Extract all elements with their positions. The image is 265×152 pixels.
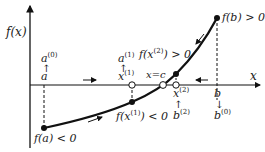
- point-fx2: [173, 71, 179, 77]
- x-axis-label: x: [250, 69, 257, 83]
- label-x2: x(2): [173, 86, 189, 100]
- label-fb: f(b) > 0: [221, 11, 265, 24]
- point-fx1: [129, 99, 135, 105]
- bisection-diagram: f(x) x a(0) ↑ a a(1) ↑ x(1) f(x(2)) > 0 …: [0, 0, 265, 152]
- label-fa: f(a) < 0: [33, 132, 76, 145]
- label-b2: b(2): [173, 108, 190, 122]
- label-a: a: [41, 70, 48, 83]
- label-b0: b(0): [214, 108, 231, 122]
- label-fx2: f(x(2)) > 0: [138, 47, 191, 61]
- y-axis-label: f(x): [5, 25, 27, 39]
- label-fx1: f(x(1)) < 0: [115, 109, 168, 123]
- point-fb: [214, 15, 220, 21]
- point-x1: [129, 82, 135, 88]
- point-root: [160, 82, 167, 89]
- point-fa: [41, 125, 47, 131]
- label-x1: x(1): [118, 69, 134, 83]
- label-root: x=c: [146, 69, 166, 80]
